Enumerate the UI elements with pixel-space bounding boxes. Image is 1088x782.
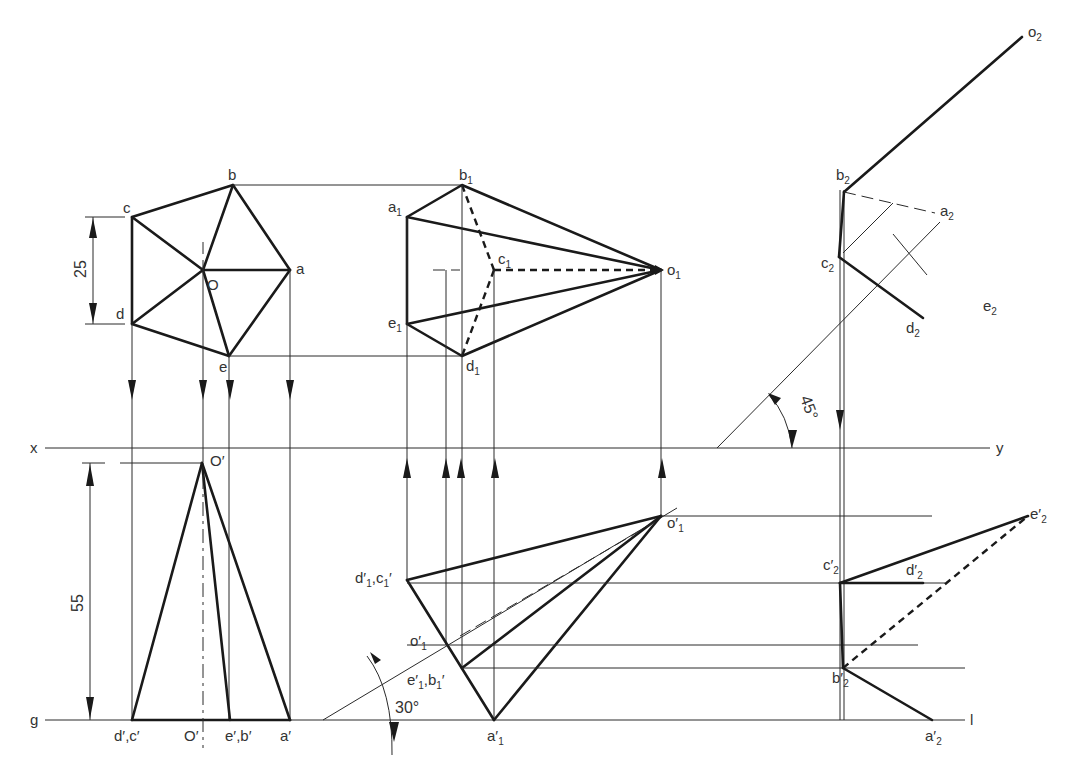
front-view-triangle: O′ d′,c′ O′ e′,b′ a′	[114, 448, 291, 748]
label-d2-prime: d′2	[906, 561, 923, 581]
label-e2: e2	[983, 297, 997, 317]
label-g: g	[30, 711, 38, 728]
aux-front-view: e′2 c′2 d′2 b′2 a′2	[823, 505, 1047, 747]
label-b2: b2	[836, 166, 850, 186]
projectors-horizontal	[407, 516, 965, 668]
label-e1b1-prime: e′1,b1′	[407, 671, 445, 691]
label-a2-prime: a′2	[925, 727, 942, 747]
label-dc-prime: d′,c′	[114, 727, 140, 744]
label-o1: o1	[667, 261, 681, 281]
label-c2: c2	[821, 254, 835, 274]
dim-25-text: 25	[72, 260, 89, 278]
label-c2-prime: c′2	[823, 556, 839, 576]
tilted-top-view: b1 a1 c1 o1 e1 d1	[388, 166, 681, 377]
label-o1-prime: o′1	[667, 514, 684, 534]
label-e2-prime: e′2	[1030, 505, 1047, 525]
label-o2: o2	[1028, 23, 1042, 43]
engineering-drawing: x y g l b a c d e O 25	[0, 0, 1088, 782]
label-a-prime: a′	[280, 727, 291, 744]
label-eb-prime: e′,b′	[225, 727, 252, 744]
label-d: d	[116, 305, 124, 322]
label-y: y	[996, 439, 1004, 456]
label-o-prime-base: O′	[184, 727, 199, 744]
label-a2: a2	[940, 202, 954, 222]
label-e: e	[219, 358, 227, 375]
label-l: l	[970, 711, 973, 728]
angle-30-text: 30°	[395, 699, 419, 716]
label-d2: d2	[906, 319, 920, 339]
dimension-55: 55	[69, 463, 202, 720]
label-a: a	[296, 260, 305, 277]
aux-top-view: o2 b2 a2 c2 d2 e2	[717, 23, 1042, 720]
tilted-front-view: o′1 d′1,c1′ o′1 e′1,b1′ a′1	[323, 508, 684, 747]
label-b: b	[228, 166, 236, 183]
label-c: c	[123, 199, 131, 216]
label-c1: c1	[498, 250, 512, 270]
label-a1: a1	[388, 198, 402, 218]
label-d1: d1	[466, 357, 480, 377]
label-d1c1-prime: d′1,c1′	[355, 569, 392, 589]
dim-55-text: 55	[69, 594, 86, 612]
label-b2-prime: b′2	[832, 669, 849, 689]
label-b1: b1	[459, 166, 473, 186]
label-o1-prime-mid: o′1	[410, 632, 427, 652]
angle-45-text: 45°	[797, 393, 821, 422]
label-e1: e1	[388, 314, 402, 334]
label-o-prime-apex: O′	[210, 452, 225, 469]
angle-45: 45°	[768, 393, 821, 448]
reference-line-xy: x y	[30, 439, 1004, 456]
label-a1-prime: a′1	[487, 727, 504, 747]
projectors-front-to-top	[403, 185, 666, 720]
label-x: x	[30, 439, 38, 456]
label-o: O	[207, 276, 219, 293]
top-view-pentagon: b a c d e O	[116, 166, 305, 375]
